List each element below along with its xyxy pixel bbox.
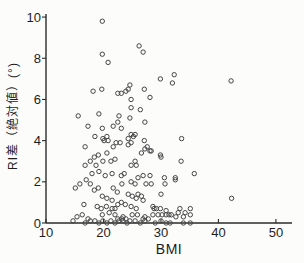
data-point (151, 213, 155, 217)
data-point (88, 159, 92, 163)
data-point (120, 182, 124, 186)
data-point (76, 114, 80, 118)
data-point (179, 136, 183, 140)
data-point (143, 120, 147, 124)
data-point (103, 173, 107, 177)
data-point (158, 77, 162, 81)
y-tick-label: 10 (27, 10, 41, 25)
data-point (119, 126, 123, 130)
data-point (129, 106, 133, 110)
data-point (141, 198, 145, 202)
data-point (107, 211, 111, 215)
data-point (134, 206, 138, 210)
data-point (229, 79, 233, 83)
data-point (80, 213, 84, 217)
data-point (129, 204, 133, 208)
data-point (97, 169, 101, 173)
data-point (130, 213, 134, 217)
data-point (100, 52, 104, 56)
scatter-plot-figure: 10203040500246810 RI差（絶対値）(°) BMI (0, 0, 304, 263)
data-point (174, 215, 178, 219)
x-axis-label: BMI (46, 241, 292, 257)
data-point (142, 87, 146, 91)
y-tick-label: 8 (34, 51, 41, 66)
data-point (115, 190, 119, 194)
data-point (141, 173, 145, 177)
data-point (97, 112, 101, 116)
data-point (93, 134, 97, 138)
data-point (101, 159, 105, 163)
data-point (135, 213, 139, 217)
data-point (170, 81, 174, 85)
data-point (100, 19, 104, 23)
data-point (113, 157, 117, 161)
data-point (137, 44, 141, 48)
data-point (136, 192, 140, 196)
data-point (116, 120, 120, 124)
y-axis-label: RI差（絶対値）(°) (3, 62, 20, 170)
x-tick-label: 30 (154, 225, 168, 240)
data-point (148, 95, 152, 99)
data-point (110, 198, 114, 202)
data-point (172, 73, 176, 77)
data-point (100, 194, 104, 198)
x-tick-label: 40 (211, 225, 225, 240)
data-point (141, 50, 145, 54)
data-point (126, 136, 130, 140)
data-point (188, 213, 192, 217)
data-point (136, 176, 140, 180)
data-point (100, 126, 104, 130)
data-point (192, 171, 196, 175)
data-point (133, 159, 137, 163)
data-point (91, 89, 95, 93)
scatter-svg: 10203040500246810 (0, 0, 304, 263)
data-point (123, 202, 127, 206)
data-point (138, 108, 142, 112)
data-point (117, 114, 121, 118)
data-point (100, 213, 104, 217)
data-point (229, 196, 233, 200)
data-point (148, 173, 152, 177)
y-tick-label: 4 (34, 133, 41, 148)
data-point (129, 163, 133, 167)
data-point (113, 213, 117, 217)
data-point (111, 186, 115, 190)
data-point (86, 124, 90, 128)
data-point (83, 145, 87, 149)
data-point (105, 196, 109, 200)
data-point (78, 182, 82, 186)
data-point (83, 163, 87, 167)
data-point (116, 202, 120, 206)
data-point (179, 159, 183, 163)
data-point (139, 151, 143, 155)
data-point (90, 171, 94, 175)
data-point (113, 206, 117, 210)
data-point (149, 182, 153, 186)
data-point (84, 178, 88, 182)
y-tick-label: 2 (34, 174, 41, 189)
data-point (129, 97, 133, 101)
data-point (104, 204, 108, 208)
data-point (181, 215, 185, 219)
data-point (96, 186, 100, 190)
data-point (144, 182, 148, 186)
data-point (100, 87, 104, 91)
data-point (188, 206, 192, 210)
data-point (111, 145, 115, 149)
data-point (111, 124, 115, 128)
data-point (88, 182, 92, 186)
data-point (162, 176, 166, 180)
x-tick-label: 50 (269, 225, 283, 240)
data-point (159, 192, 163, 196)
data-point (82, 202, 86, 206)
data-point (163, 182, 167, 186)
data-point (73, 186, 77, 190)
data-point (75, 215, 79, 219)
data-point (94, 163, 98, 167)
data-point (133, 182, 137, 186)
data-point (105, 151, 109, 155)
data-point (128, 116, 132, 120)
data-point (99, 206, 103, 210)
data-point (106, 60, 110, 64)
data-point (110, 171, 114, 175)
